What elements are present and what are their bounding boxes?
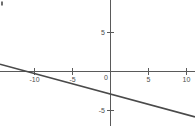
x-tick-label-5: 5 xyxy=(147,76,151,83)
x-tick-label-10: 10 xyxy=(183,76,191,83)
line-plot-figure: -10 -5 0 5 10 5 -5 xyxy=(0,0,195,131)
x-tick-label-origin: 0 xyxy=(104,74,108,81)
x-tick-label-neg5: -5 xyxy=(69,76,75,83)
tick-label-svg: -10 -5 0 5 10 5 -5 xyxy=(0,0,195,131)
y-tick-label-5: 5 xyxy=(101,29,105,36)
x-tick-label-neg10: -10 xyxy=(29,76,39,83)
y-tick-label-neg5: -5 xyxy=(99,107,105,114)
